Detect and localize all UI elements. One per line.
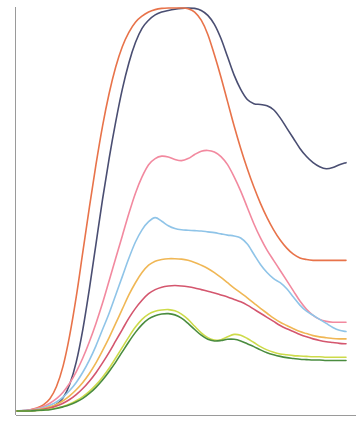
series-pink	[17, 150, 346, 411]
chart-container	[0, 0, 358, 432]
series-darkgreen	[17, 314, 346, 411]
series-yellowgreen	[17, 310, 346, 411]
series-orange	[17, 8, 346, 411]
series-group	[17, 8, 346, 411]
line-chart-plot	[0, 0, 358, 432]
